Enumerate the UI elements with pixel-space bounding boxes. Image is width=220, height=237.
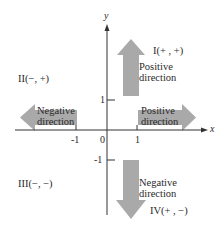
quadrant-IV-label: IV(+ , −) (150, 205, 188, 216)
y-axis-label: y (104, 10, 108, 21)
right-arrow-caption: Positive direction (141, 106, 178, 127)
x-axis-arrowhead-icon (201, 128, 208, 133)
y-tick-label-neg1: -1 (94, 155, 102, 165)
up-arrow-caption: Positive direction (139, 62, 176, 83)
origin-label: 0 (100, 135, 105, 145)
quadrant-I-label: I(+ , +) (153, 45, 183, 56)
quadrant-III-label: III(−, −) (18, 178, 53, 189)
left-arrow-caption: Negative direction (37, 106, 75, 127)
down-arrow-caption: Negative direction (139, 178, 177, 199)
quadrant-II-label: II(−, +) (18, 73, 49, 84)
x-tick-label-neg1: -1 (71, 135, 79, 145)
x-axis-label: x (210, 123, 214, 134)
coordinate-plane (0, 0, 220, 237)
y-axis-arrowhead-icon (105, 24, 110, 31)
x-tick-label-pos1: 1 (135, 135, 140, 145)
y-tick-label-pos1: 1 (100, 95, 105, 105)
